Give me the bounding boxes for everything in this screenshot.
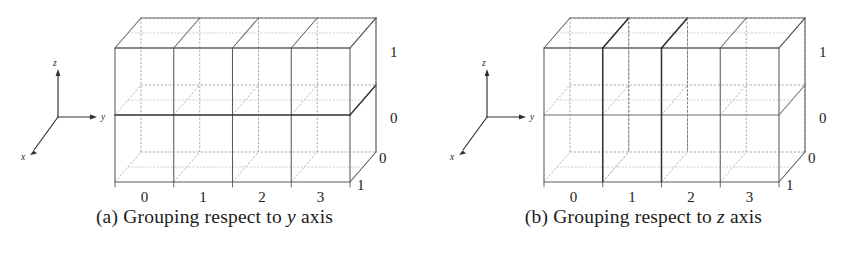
caption-a: (a) Grouping respect to y axis	[0, 206, 429, 228]
figure-a-drawing: z y x 0 1 2 3 1 0 0 1	[0, 0, 429, 212]
tick-right-x-0: 0	[808, 150, 816, 166]
tick-bottom-1: 1	[628, 189, 636, 205]
caption-a-axis: y	[287, 206, 296, 227]
axis-label-x: x	[20, 152, 26, 162]
tick-bottom-0: 0	[141, 189, 149, 205]
axis-label-y: y	[529, 112, 535, 122]
axis-label-z: z	[52, 58, 57, 68]
axis-label-z: z	[481, 58, 486, 68]
caption-a-text: Grouping respect to	[123, 206, 282, 227]
tick-right-z-1: 1	[390, 44, 398, 60]
caption-a-prefix: (a)	[96, 206, 118, 227]
caption-b-suffix: axis	[730, 206, 762, 227]
tick-bottom-2: 2	[687, 189, 695, 205]
tick-right-x-0: 0	[379, 150, 387, 166]
caption-b-text: Grouping respect to	[553, 206, 712, 227]
caption-a-suffix: axis	[301, 206, 333, 227]
tick-bottom-3: 3	[746, 189, 754, 205]
panel-a: z y x 0 1 2 3 1 0 0 1 (a) Gro	[0, 0, 429, 266]
tick-right-z-0: 0	[390, 110, 398, 126]
caption-b-axis: z	[717, 206, 725, 227]
caption-b-prefix: (b)	[525, 206, 548, 227]
tick-right-x-1: 1	[357, 177, 365, 193]
tick-bottom-2: 2	[258, 189, 266, 205]
tick-bottom-0: 0	[570, 189, 578, 205]
tick-bottom-1: 1	[199, 189, 207, 205]
axis-label-y: y	[100, 112, 106, 122]
tick-right-z-0: 0	[819, 110, 827, 126]
caption-b: (b) Grouping respect to z axis	[429, 206, 858, 228]
tick-bottom-3: 3	[317, 189, 325, 205]
panel-b: z y x 0 1 2 3 1 0 0 1 (b) Gro	[429, 0, 858, 266]
tick-right-x-1: 1	[786, 177, 794, 193]
figure-b-drawing: z y x 0 1 2 3 1 0 0 1	[429, 0, 858, 212]
axis-label-x: x	[449, 152, 455, 162]
tick-right-z-1: 1	[819, 44, 827, 60]
